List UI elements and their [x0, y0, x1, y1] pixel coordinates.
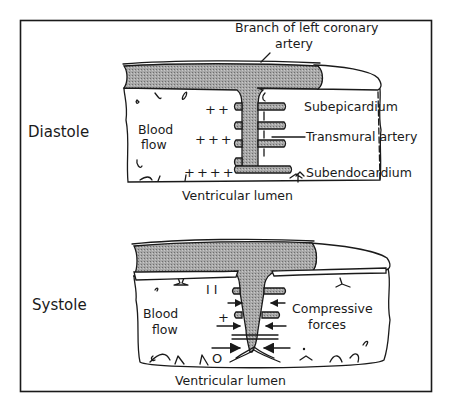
- diastole-blood-flow-line1: Blood: [138, 122, 173, 137]
- diastole-flow-marker-subepi: ++: [205, 102, 231, 117]
- label-transmural-artery: Transmural artery: [305, 129, 418, 144]
- diastole-ventricular-lumen-label: Ventricular lumen: [182, 188, 293, 203]
- diastole-blood-flow-line2: flow: [141, 137, 167, 152]
- systole-flow-marker-subepi: I I: [206, 282, 217, 297]
- label-subepicardium: Subepicardium: [304, 99, 398, 114]
- systole-ventricular-lumen-label: Ventricular lumen: [175, 373, 286, 388]
- systole-blood-flow-line1: Blood: [143, 306, 178, 321]
- label-branch-left-coronary-line1: Branch of left coronary: [235, 20, 379, 35]
- diastole-panel: Branch of left coronary artery Subepicar…: [28, 20, 418, 203]
- label-branch-left-coronary-line2: artery: [275, 36, 314, 51]
- coronary-flow-diagram: Branch of left coronary artery Subepicar…: [0, 0, 450, 410]
- label-diastole: Diastole: [28, 123, 89, 141]
- systole-flow-marker-mid: +: [218, 310, 231, 325]
- diastole-flow-marker-subendo: ++++: [184, 165, 236, 180]
- systole-panel: Systole Blood flow Compressive forces I …: [32, 239, 390, 388]
- systole-flow-marker-subendo: O: [212, 351, 224, 366]
- label-systole: Systole: [32, 296, 87, 314]
- label-compressive-forces-line2: forces: [308, 317, 346, 332]
- label-subendocardium: Subendocardium: [306, 165, 412, 180]
- diastole-flow-marker-mid: +++: [195, 132, 234, 147]
- label-compressive-forces-line1: Compressive: [292, 301, 373, 316]
- systole-blood-flow-line2: flow: [152, 322, 178, 337]
